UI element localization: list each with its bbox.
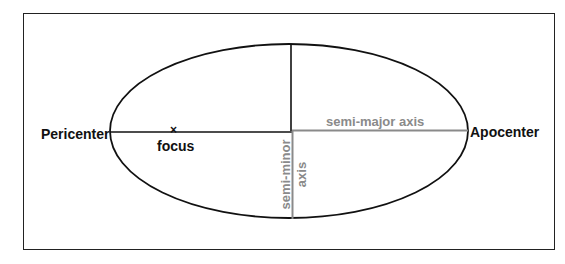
apocenter-label: Apocenter [470,125,539,139]
semi-minor-axis-label-2: axis [295,155,308,195]
semi-minor-axis-label: semi-minor [279,134,292,216]
semi-major-axis-label: semi-major axis [326,115,424,128]
focus-label: focus [157,139,194,153]
focus-marker-icon: × [170,124,177,136]
pericenter-label: Pericenter [41,127,109,141]
